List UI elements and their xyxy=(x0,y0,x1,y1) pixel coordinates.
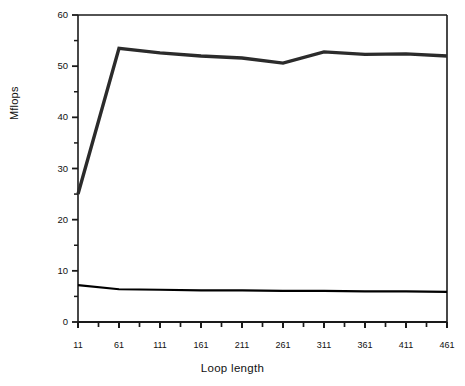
y-tick-label: 40 xyxy=(40,112,68,122)
x-tick-label: 161 xyxy=(181,340,221,350)
data-series-upper-line xyxy=(78,48,447,194)
y-tick-label: 0 xyxy=(40,317,68,327)
x-tick-label: 261 xyxy=(263,340,303,350)
y-tick-label: 10 xyxy=(40,266,68,276)
y-tick-label: 50 xyxy=(40,61,68,71)
x-tick-label: 361 xyxy=(345,340,385,350)
y-tick-label: 20 xyxy=(40,215,68,225)
y-tick-label: 30 xyxy=(40,164,68,174)
x-tick-label: 111 xyxy=(140,340,180,350)
x-tick-label: 61 xyxy=(99,340,139,350)
x-tick-label: 211 xyxy=(222,340,262,350)
plot-canvas xyxy=(0,0,465,386)
x-tick-label: 311 xyxy=(304,340,344,350)
chart-figure: Mflops 0102030405060 1161111161211261311… xyxy=(0,0,465,386)
x-tick-label: 411 xyxy=(386,340,426,350)
data-series-lower-line xyxy=(78,285,447,292)
y-tick-label: 60 xyxy=(40,10,68,20)
x-tick-label: 11 xyxy=(58,340,98,350)
x-tick-label: 461 xyxy=(427,340,465,350)
x-axis-title: Loop length xyxy=(0,362,465,374)
